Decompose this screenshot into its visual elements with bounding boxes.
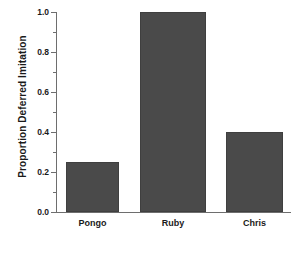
x-tick-label-pongo: Pongo bbox=[66, 219, 119, 228]
y-tick-label: 0.6 bbox=[25, 88, 49, 97]
y-tick-label: 0.4 bbox=[25, 128, 49, 137]
bar-chris bbox=[226, 132, 283, 212]
y-tick-label: 0.2 bbox=[25, 168, 49, 177]
plot-area bbox=[57, 12, 290, 212]
y-tick-major bbox=[51, 212, 57, 213]
y-axis-title: Proportion Deferred Imitation bbox=[14, 0, 30, 212]
y-tick-label: 1.0 bbox=[25, 8, 49, 17]
bar-pongo bbox=[66, 162, 119, 212]
y-tick-label: 0.8 bbox=[25, 48, 49, 57]
y-axis-title-text: Proportion Deferred Imitation bbox=[17, 35, 28, 177]
bar-ruby bbox=[140, 12, 206, 212]
x-axis-spine bbox=[56, 212, 291, 213]
bar-chart-figure: Proportion Deferred Imitation 0.00.20.40… bbox=[0, 0, 298, 253]
x-tick-label-ruby: Ruby bbox=[140, 219, 206, 228]
x-tick-label-chris: Chris bbox=[226, 219, 283, 228]
y-tick-label: 0.0 bbox=[25, 208, 49, 217]
